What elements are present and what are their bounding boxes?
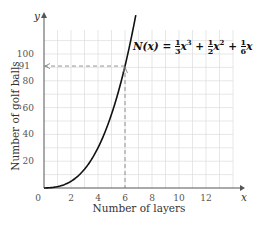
svg-text:80: 80 [23, 76, 35, 86]
svg-text:60: 60 [23, 103, 35, 113]
chart: 02468101220406080100 Number of layers Nu… [0, 0, 261, 228]
y-axis-symbol: y [33, 10, 41, 22]
svg-text:2: 2 [68, 193, 74, 203]
svg-text:40: 40 [23, 129, 35, 139]
svg-text:20: 20 [23, 156, 35, 166]
tick-labels: 02468101220406080100 [17, 49, 212, 203]
x-axis-title: Number of layers [93, 202, 186, 214]
dashed-guides [44, 64, 128, 188]
formula-lhs: N(x) = [133, 40, 171, 52]
x-axis-symbol: x [241, 191, 247, 203]
svg-text:12: 12 [200, 193, 211, 203]
highlight-value-label: 91 [19, 61, 30, 71]
svg-text:100: 100 [17, 49, 34, 59]
y-axis-title: Number of golf balls [9, 61, 21, 170]
equation-label: N(x) = 13 x3 + 12 x2 + 16 x [133, 38, 252, 55]
svg-text:0: 0 [35, 193, 41, 203]
